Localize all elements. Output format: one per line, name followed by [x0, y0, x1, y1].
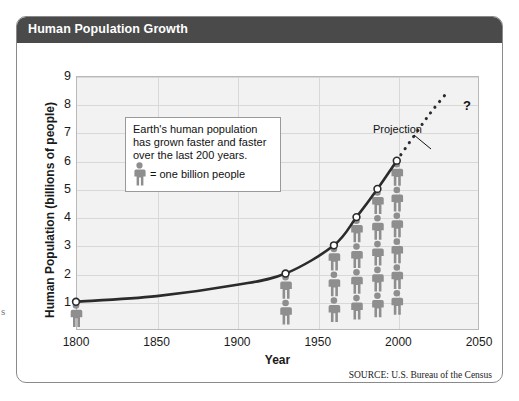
plot-area — [76, 76, 479, 330]
figure-frame: Human Population Growth 123456789 180018… — [16, 16, 503, 383]
callout-line-3: over the last 200 years. — [133, 149, 273, 162]
callout-line-1: Earth's human population — [133, 123, 273, 136]
person-icon — [133, 162, 146, 186]
callout-box: Earth's human population has grown faste… — [125, 117, 281, 192]
gridline-vertical — [399, 77, 400, 329]
x-tick-label: 1950 — [304, 335, 331, 349]
y-tick-label: 8 — [55, 97, 71, 111]
x-axis-ticks: 180018501900195020002050 — [76, 335, 479, 353]
x-tick-label: 1900 — [224, 335, 251, 349]
projection-label: Projection — [373, 123, 422, 135]
y-tick-label: 2 — [55, 267, 71, 281]
gridline-horizontal — [77, 246, 478, 247]
x-tick-label: 2050 — [466, 335, 493, 349]
gridline-horizontal — [77, 77, 478, 78]
x-tick-label: 1850 — [143, 335, 170, 349]
x-tick-label: 1800 — [63, 335, 90, 349]
y-tick-label: 5 — [55, 182, 71, 196]
callout-legend-label: = one billion people — [150, 168, 245, 180]
gridline-horizontal — [77, 303, 478, 304]
callout-line-2: has grown faster and faster — [133, 136, 273, 149]
y-tick-label: 7 — [55, 125, 71, 139]
y-tick-label: 4 — [55, 210, 71, 224]
chart-area: 123456789 180018501900195020002050 Human… — [17, 43, 503, 382]
source-note: SOURCE: U.S. Bureau of the Census — [349, 370, 492, 380]
figure-title: Human Population Growth — [28, 22, 188, 36]
margin-stray-glyph: s — [1, 305, 5, 317]
x-tick-label: 2000 — [385, 335, 412, 349]
y-tick-label: 1 — [55, 295, 71, 309]
gridline-horizontal — [77, 218, 478, 219]
figure-title-bar: Human Population Growth — [17, 17, 503, 43]
gridline-horizontal — [77, 275, 478, 276]
gridline-vertical — [158, 77, 159, 329]
y-axis-title: Human Population (billions of people) — [43, 95, 57, 325]
question-mark-label: ? — [463, 98, 471, 113]
gridline-horizontal — [77, 105, 478, 106]
y-tick-label: 9 — [55, 69, 71, 83]
y-tick-label: 3 — [55, 238, 71, 252]
gridline-vertical — [319, 77, 320, 329]
x-axis-title: Year — [76, 353, 479, 367]
callout-legend: = one billion people — [133, 162, 245, 186]
gridline-vertical — [238, 77, 239, 329]
y-tick-label: 6 — [55, 154, 71, 168]
